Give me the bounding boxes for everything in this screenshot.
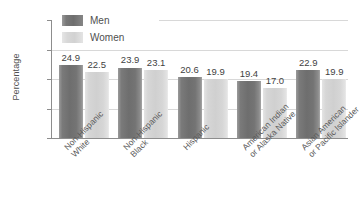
legend-item-men: Men xyxy=(62,12,124,29)
bar-value-label: 22.5 xyxy=(83,60,111,70)
gridline xyxy=(52,50,348,51)
legend-label-men: Men xyxy=(90,16,109,26)
bar-value-label: 19.9 xyxy=(320,67,348,77)
bar-value-label: 17.0 xyxy=(261,76,289,86)
legend-label-women: Women xyxy=(90,33,124,43)
bar-value-label: 23.1 xyxy=(142,58,170,68)
legend: Men Women xyxy=(62,12,124,46)
y-axis-line xyxy=(51,20,52,139)
legend-swatch-men-icon xyxy=(62,15,83,26)
y-axis-title: Percentage xyxy=(11,27,21,127)
bar-value-label: 22.9 xyxy=(294,58,322,68)
bar-value-label: 19.9 xyxy=(202,67,230,77)
bar-value-label: 24.9 xyxy=(57,53,85,63)
bar-value-label: 20.6 xyxy=(176,65,204,75)
gridline xyxy=(159,20,348,21)
legend-swatch-women-icon xyxy=(62,32,83,43)
legend-item-women: Women xyxy=(62,29,124,46)
bar-value-label: 23.9 xyxy=(116,55,144,65)
bar-value-label: 19.4 xyxy=(235,69,263,79)
